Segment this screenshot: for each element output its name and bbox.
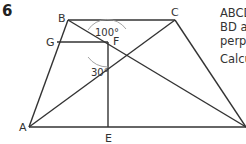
point-label-b: B (58, 12, 66, 25)
point-label-e: E (105, 132, 112, 144)
point-label-c: C (171, 6, 179, 19)
question-text-line-4: Calcu (220, 52, 246, 66)
point-label-a: A (19, 121, 27, 134)
point-label-g: G (46, 36, 55, 49)
angle-label-30: 30° (91, 67, 109, 78)
angle-arc-30 (88, 57, 108, 67)
question-text-line-1: ABCD (220, 6, 246, 20)
geometry-diagram: 100° 30° B C G F A E (0, 0, 246, 144)
question-text-line-2: BD a (220, 20, 246, 34)
question-text-line-3: perp (220, 34, 246, 48)
point-label-f: F (113, 35, 119, 48)
